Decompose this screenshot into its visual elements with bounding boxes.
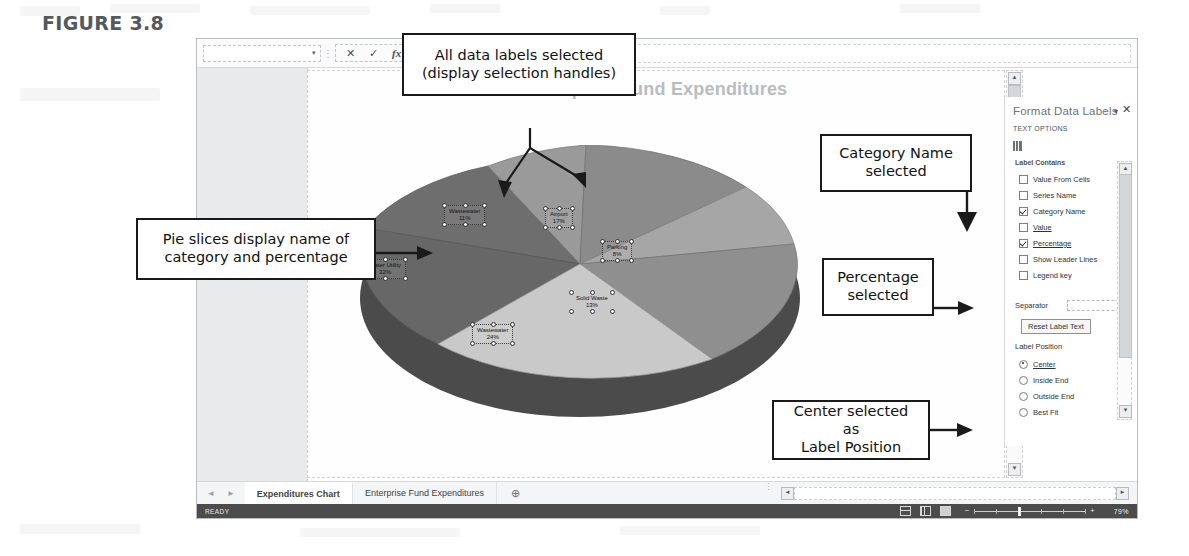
name-box[interactable]: ▾: [203, 45, 321, 62]
checkbox-icon[interactable]: [1019, 271, 1028, 280]
checkbox-row-percentage[interactable]: Percentage: [1019, 235, 1113, 251]
checkbox-label: Category Name: [1033, 207, 1086, 216]
scroll-right-icon[interactable]: ►: [1116, 487, 1129, 500]
radio-label: Inside End: [1033, 376, 1068, 385]
checkbox-icon[interactable]: [1019, 207, 1028, 216]
insert-function-icon[interactable]: fx: [392, 48, 401, 59]
chevron-down-icon[interactable]: ▾: [1114, 107, 1118, 116]
radio-icon[interactable]: [1019, 360, 1028, 369]
checkbox-label: Show Leader Lines: [1033, 255, 1097, 264]
leader-data-labels: [400, 128, 670, 228]
checkbox-icon[interactable]: [1019, 239, 1028, 248]
zoom-slider[interactable]: − +: [961, 507, 1099, 515]
leader-pie-slices: [375, 240, 445, 266]
radio-label: Best Fit: [1033, 408, 1058, 417]
radio-row-center[interactable]: Center: [1019, 356, 1113, 372]
label-position-options: Center Inside End Outside End Best Fit: [1019, 356, 1113, 420]
next-sheet-icon[interactable]: ►: [227, 489, 235, 498]
scroll-down-icon[interactable]: ▼: [1119, 405, 1132, 418]
checkbox-icon[interactable]: [1019, 223, 1028, 232]
callout-line-1: Center selected as: [784, 403, 918, 438]
zoom-level[interactable]: 79%: [1109, 508, 1129, 515]
callout-center-label-position: Center selected as Label Position: [772, 400, 930, 460]
checkbox-icon[interactable]: [1019, 255, 1028, 264]
enter-icon[interactable]: ✓: [369, 48, 378, 59]
checkbox-row-series-name[interactable]: Series Name: [1019, 187, 1113, 203]
close-icon[interactable]: ✕: [1122, 104, 1131, 115]
leader-percentage: [928, 296, 984, 320]
zoom-in-icon[interactable]: +: [1086, 507, 1099, 515]
zoom-out-icon[interactable]: −: [961, 507, 974, 515]
chevron-down-icon[interactable]: ▾: [312, 49, 316, 57]
callout-all-data-labels: All data labels selected (display select…: [402, 33, 636, 96]
callout-percentage: Percentage selected: [822, 258, 934, 316]
checkbox-label: Value From Cells: [1033, 175, 1090, 184]
scrollbar-thumb[interactable]: [1119, 174, 1132, 358]
callout-line-2: category and percentage: [148, 249, 364, 267]
radio-row-inside-end[interactable]: Inside End: [1019, 372, 1113, 388]
data-label-wastewater-24[interactable]: Wastewater 24%: [472, 324, 513, 344]
normal-view-icon[interactable]: [900, 506, 911, 516]
callout-pie-slices: Pie slices display name of category and …: [136, 218, 376, 280]
radio-icon[interactable]: [1019, 376, 1028, 385]
cancel-icon[interactable]: ✕: [346, 48, 355, 59]
data-label-name: Solid Waste: [576, 295, 608, 302]
callout-line-1: Percentage: [834, 269, 922, 287]
scroll-down-icon[interactable]: ▼: [1008, 463, 1021, 476]
data-label-percent: 13%: [576, 302, 608, 309]
formula-bar-grip-icon: ⋮: [321, 48, 335, 59]
separator-row: Separator , ▾: [1015, 300, 1129, 311]
radio-label: Center: [1033, 360, 1056, 369]
task-pane-tabs[interactable]: TEXT OPTIONS: [1013, 125, 1131, 132]
radio-icon[interactable]: [1019, 392, 1028, 401]
formula-bar-buttons: ✕ ✓ fx: [335, 44, 412, 62]
view-buttons: [900, 506, 951, 516]
radio-row-outside-end[interactable]: Outside End: [1019, 388, 1113, 404]
zoom-slider-thumb[interactable]: [1018, 507, 1021, 516]
horizontal-scroll-track[interactable]: [794, 487, 1116, 500]
tab-split-grip-icon[interactable]: ⋮: [756, 482, 781, 504]
checkbox-label: Percentage: [1033, 239, 1071, 248]
label-options-icon[interactable]: [1013, 141, 1022, 151]
radio-row-best-fit[interactable]: Best Fit: [1019, 404, 1113, 420]
label-contains-heading: Label Contains: [1015, 159, 1065, 166]
data-label-percent: 8%: [607, 251, 627, 258]
reset-label-text-button[interactable]: Reset Label Text: [1021, 319, 1091, 334]
sheet-tab-enterprise-fund-expenditures[interactable]: Enterprise Fund Expenditures: [353, 482, 497, 504]
label-position-heading: Label Position: [1015, 342, 1062, 351]
callout-category-name: Category Name selected: [820, 134, 972, 192]
callout-line-2: selected: [834, 287, 922, 305]
sheet-tab-label: Enterprise Fund Expenditures: [365, 488, 484, 498]
sheet-tab-expenditures-chart[interactable]: Expenditures Chart: [245, 482, 353, 504]
zoom-track[interactable]: [974, 511, 1086, 512]
callout-line-1: Category Name: [832, 145, 960, 163]
previous-sheet-icon[interactable]: ◄: [207, 489, 215, 498]
checkbox-row-legend-key[interactable]: Legend key: [1019, 267, 1113, 283]
scroll-left-icon[interactable]: ◄: [781, 487, 794, 500]
add-sheet-icon[interactable]: ⊕: [497, 482, 534, 504]
page-layout-view-icon[interactable]: [920, 506, 931, 516]
checkbox-icon[interactable]: [1019, 175, 1028, 184]
checkbox-row-category-name[interactable]: Category Name: [1019, 203, 1113, 219]
radio-icon[interactable]: [1019, 408, 1028, 417]
data-label-parking[interactable]: Parking 8%: [602, 241, 632, 261]
horizontal-scrollbar[interactable]: ◄ ►: [781, 482, 1129, 504]
checkbox-icon[interactable]: [1019, 191, 1028, 200]
checkbox-row-value[interactable]: Value: [1019, 219, 1113, 235]
task-pane-title: Format Data Labels: [1013, 105, 1118, 117]
checkbox-label: Series Name: [1033, 191, 1076, 200]
format-data-labels-pane: Format Data Labels ▾ ✕ TEXT OPTIONS Labe…: [1004, 97, 1137, 446]
task-pane-scrollbar[interactable]: ▲ ▼: [1117, 161, 1132, 420]
callout-line-2: selected: [832, 163, 960, 181]
scroll-up-icon[interactable]: ▲: [1008, 72, 1021, 85]
data-label-percent: 24%: [477, 334, 508, 341]
sheet-tab-label: Expenditures Chart: [257, 489, 340, 499]
data-label-solid-waste[interactable]: Solid Waste 13%: [572, 293, 612, 311]
checkbox-row-show-leader-lines[interactable]: Show Leader Lines: [1019, 251, 1113, 267]
status-text: READY: [205, 508, 229, 515]
figure-label: FIGURE 3.8: [42, 12, 164, 34]
leader-center-position: [925, 418, 983, 442]
status-bar: READY − + 79%: [197, 504, 1137, 518]
checkbox-row-value-from-cells[interactable]: Value From Cells: [1019, 171, 1113, 187]
page-break-preview-icon[interactable]: [940, 506, 951, 516]
